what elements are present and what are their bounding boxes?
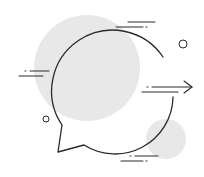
small-ring-left [43, 116, 49, 122]
illustration-canvas [0, 0, 204, 177]
motion-lines-top [116, 22, 155, 27]
speech-bubble-illustration [0, 0, 204, 177]
arrow-right-icon [142, 81, 192, 93]
small-ring-top-right [179, 40, 187, 48]
small-blob-circle [146, 119, 186, 159]
motion-lines-bottom [121, 156, 158, 161]
